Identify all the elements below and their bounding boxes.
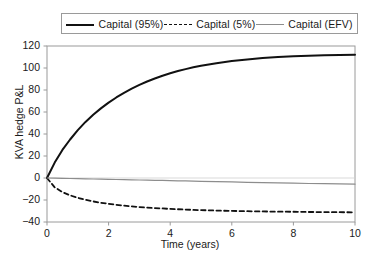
plot-area [0, 0, 380, 258]
y-tick-label: 120 [14, 39, 40, 51]
series-capital-95 [47, 55, 355, 178]
x-axis-title: Time (years) [0, 238, 380, 250]
series-capital-efv [47, 178, 355, 184]
chart-figure: Capital (95%) Capital (5%) Capital (EFV)… [0, 0, 380, 258]
y-axis-title: KVA hedge P&L [13, 62, 25, 182]
y-tick-label: −20 [14, 193, 40, 205]
plot-frame [47, 46, 355, 222]
y-tick-label: −40 [14, 215, 40, 227]
